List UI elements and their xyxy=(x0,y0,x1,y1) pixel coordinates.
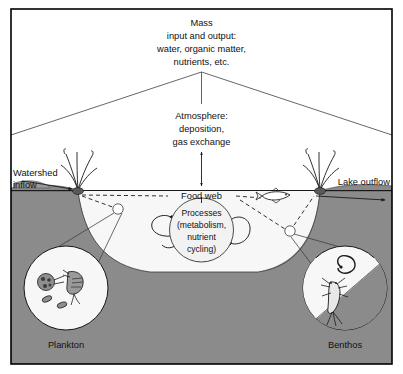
atmosphere-label-line-1: Atmosphere: xyxy=(175,111,228,121)
watershed-inflow-line-2: inflow xyxy=(13,180,37,190)
mass-label-line-3: water, organic matter, xyxy=(156,44,246,54)
plankton-inset-circle xyxy=(24,246,108,330)
processes-label-line-4: cycling) xyxy=(187,244,216,254)
worm-head xyxy=(339,265,342,268)
processes-label-line-3: nutrient xyxy=(187,232,216,242)
benthos-focus-point xyxy=(285,226,295,236)
benthos-label: Benthos xyxy=(328,340,362,350)
atmosphere-label-line-2: deposition, xyxy=(179,124,224,134)
processes-label-line-2: (metabolism, xyxy=(177,220,226,230)
watershed-inflow-line-1: Watershed xyxy=(13,168,58,178)
plankton-focus-point xyxy=(113,204,123,214)
mass-label-line-2: input and output: xyxy=(167,31,236,41)
processes-label-line-1: Processes xyxy=(181,208,221,218)
plankton-label: Plankton xyxy=(48,340,84,350)
mass-label-line-4: nutrients, etc. xyxy=(174,57,230,67)
diagram-canvas: Mass input and output: water, organic ma… xyxy=(0,0,403,374)
reed-base-left xyxy=(73,188,84,195)
atmosphere-label: Atmosphere: deposition, gas exchange xyxy=(173,111,231,147)
lake-outflow-label: Lake outflow xyxy=(338,177,390,187)
mass-label-line-1: Mass xyxy=(190,18,213,28)
food-web-label: Food web xyxy=(181,191,222,201)
reed-base-right xyxy=(315,188,326,195)
lake-ecosystem-figure: Mass input and output: water, organic ma… xyxy=(0,0,403,374)
atmosphere-label-line-3: gas exchange xyxy=(173,137,231,147)
